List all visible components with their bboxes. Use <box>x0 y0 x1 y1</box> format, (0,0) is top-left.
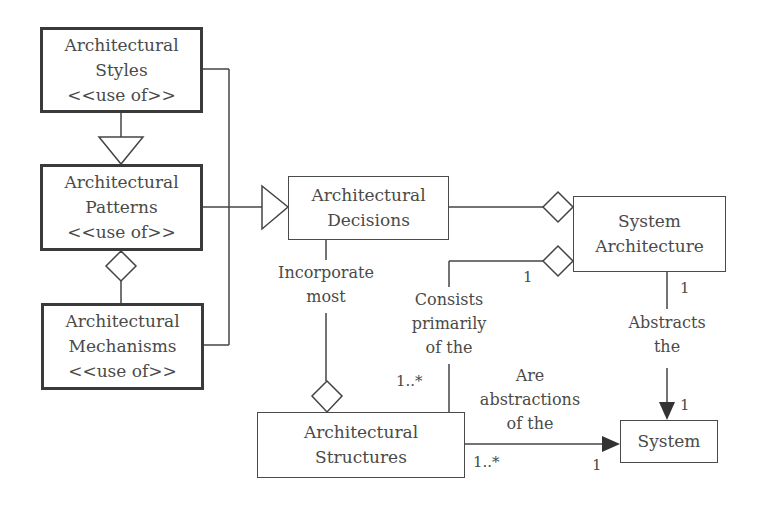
node-architectural-decisions: Architectural Decisions <box>288 176 449 240</box>
multiplicity-label: 1..* <box>396 372 423 390</box>
stereotype-label: <<use of>> <box>67 83 176 108</box>
edge-label-line: primarily <box>412 312 487 336</box>
architecture-diagram: Architectural Styles <<use of>> Architec… <box>0 0 760 508</box>
edge-label-incorporate-most: Incorporate most <box>278 261 374 309</box>
arrowhead-icon <box>602 436 620 452</box>
edge-label-line: most <box>278 285 374 309</box>
node-system: System <box>620 420 718 463</box>
edge-label-abstracts-the: Abstracts the <box>628 311 705 359</box>
edge-label-line: Consists <box>412 288 487 312</box>
edge-label-line: of the <box>480 412 580 436</box>
node-label-line: Architectural <box>304 420 418 445</box>
node-label-line: Architectural <box>64 33 178 58</box>
node-label-line: Structures <box>315 445 407 470</box>
edge-label-line: Are <box>480 364 580 388</box>
aggregation-diamond-icon <box>543 192 573 222</box>
node-label-line: Architectural <box>65 309 179 334</box>
node-label-line: Architecture <box>595 234 704 259</box>
node-label-line: System <box>638 429 701 454</box>
aggregation-diamond-icon <box>312 381 342 412</box>
multiplicity-label: 1 <box>680 396 690 414</box>
node-system-architecture: System Architecture <box>573 196 726 272</box>
edge-label-line: the <box>628 335 705 359</box>
node-architectural-styles: Architectural Styles <<use of>> <box>40 27 203 113</box>
stereotype-label: <<use of>> <box>67 220 176 245</box>
node-architectural-patterns: Architectural Patterns <<use of>> <box>40 164 203 251</box>
node-label-line: Styles <box>95 58 147 83</box>
multiplicity-label: 1 <box>592 456 602 474</box>
node-architectural-mechanisms: Architectural Mechanisms <<use of>> <box>41 303 204 390</box>
edge-label-line: Abstracts <box>628 311 705 335</box>
node-architectural-structures: Architectural Structures <box>257 412 465 478</box>
node-label-line: Mechanisms <box>68 334 176 359</box>
node-label-line: Architectural <box>311 183 425 208</box>
node-label-line: Patterns <box>85 195 157 220</box>
stereotype-label: <<use of>> <box>68 359 177 384</box>
edge-label-are-abstractions: Are abstractions of the <box>480 364 580 436</box>
generalization-triangle-icon <box>99 137 143 164</box>
node-label-line: Decisions <box>327 208 410 233</box>
node-label-line: Architectural <box>64 170 178 195</box>
multiplicity-label: 1..* <box>473 453 500 471</box>
node-label-line: System <box>618 209 681 234</box>
generalization-triangle-icon <box>262 186 288 229</box>
multiplicity-label: 1 <box>680 279 690 297</box>
edge-label-consists-primarily: Consists primarily of the <box>412 288 487 360</box>
edge-label-line: Incorporate <box>278 261 374 285</box>
arrowhead-icon <box>659 402 675 420</box>
aggregation-diamond-icon <box>106 251 136 281</box>
multiplicity-label: 1 <box>523 268 533 286</box>
edge-label-line: of the <box>412 336 487 360</box>
aggregation-diamond-icon <box>543 246 573 276</box>
edge-label-line: abstractions <box>480 388 580 412</box>
